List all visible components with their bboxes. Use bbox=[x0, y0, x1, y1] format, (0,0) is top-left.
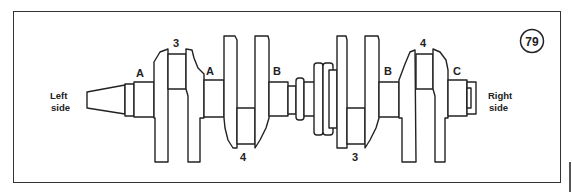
figure-number: 79 bbox=[525, 35, 539, 49]
left-side-label-line2: side bbox=[51, 102, 70, 113]
left-side-label-line1: Left bbox=[50, 90, 68, 101]
web-3b bbox=[365, 36, 379, 148]
right-side-label-line2: side bbox=[489, 102, 508, 113]
web-3a bbox=[337, 36, 347, 148]
web-2b bbox=[255, 36, 269, 148]
crankpin-label-3-bottom: 3 bbox=[352, 151, 358, 163]
journal-label-a-left: A bbox=[136, 67, 144, 79]
journal-label-b-right: B bbox=[384, 65, 392, 77]
crankpin-label-4-top: 4 bbox=[420, 37, 427, 49]
web-1b bbox=[186, 49, 204, 162]
journal-label-a-mid: A bbox=[206, 65, 214, 77]
journal-a-left bbox=[134, 82, 154, 117]
left-nose-collar bbox=[125, 84, 134, 116]
crankshaft-diagram: Left side Right side A A B B C 3 4 3 4 7… bbox=[0, 0, 572, 192]
journal-b-left bbox=[269, 82, 288, 116]
right-side-label-line1: Right bbox=[488, 90, 513, 101]
journal-label-c: C bbox=[453, 65, 461, 77]
crankpin-4-top bbox=[416, 54, 433, 89]
center-flange-3 bbox=[329, 70, 337, 128]
journal-c bbox=[448, 80, 467, 116]
center-collar-small bbox=[296, 78, 304, 120]
center-neck-1 bbox=[288, 86, 296, 114]
crankpin-3-bottom bbox=[347, 108, 365, 144]
web-2a bbox=[224, 36, 237, 148]
web-4b bbox=[433, 49, 448, 162]
left-nose-taper bbox=[87, 85, 125, 114]
web-1a bbox=[154, 49, 168, 162]
crankpin-label-4-bottom: 4 bbox=[240, 151, 247, 163]
right-end-stub bbox=[467, 88, 471, 108]
crankpin-3-top bbox=[168, 54, 186, 89]
crankpin-label-3-top: 3 bbox=[173, 37, 179, 49]
web-4a bbox=[399, 50, 416, 162]
journal-label-b-left: B bbox=[273, 65, 281, 77]
journal-b-right bbox=[379, 82, 399, 117]
center-flange-1 bbox=[314, 63, 323, 135]
journal-a-mid bbox=[204, 80, 224, 117]
crankpin-4-bottom bbox=[237, 108, 255, 144]
